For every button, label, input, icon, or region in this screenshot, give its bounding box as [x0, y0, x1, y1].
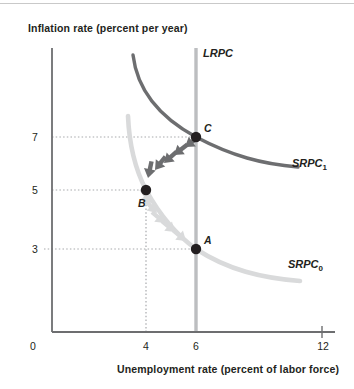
x-tick-label-0: 0 — [26, 340, 40, 352]
srpc1-label-subscript: 1 — [323, 163, 327, 172]
point-label-c: C — [204, 122, 212, 134]
x-tick-label-12: 12 — [315, 340, 331, 352]
x-tick-label-6: 6 — [189, 340, 203, 352]
srpc0-label-text: SRPC — [288, 258, 319, 270]
y-tick-label-5: 5 — [28, 184, 42, 196]
srpc1-curve — [133, 55, 298, 167]
data-point-a — [191, 244, 201, 254]
x-tick-label-4: 4 — [139, 340, 153, 352]
phillips-curve-chart — [0, 0, 354, 389]
srpc1-label: SRPC1 — [292, 157, 327, 172]
y-tick-label-3: 3 — [28, 243, 42, 255]
y-tick-label-7: 7 — [28, 131, 42, 143]
point-label-b: B — [138, 197, 146, 209]
srpc0-label-subscript: 0 — [319, 264, 323, 273]
y-axis-title: Inflation rate (percent per year) — [28, 22, 188, 34]
srpc0-curve — [128, 116, 300, 281]
srpc1-label-text: SRPC — [292, 157, 323, 169]
figure-container: Inflation rate (percent per year) Unempl… — [0, 0, 354, 389]
data-point-c — [191, 132, 201, 142]
data-point-b — [141, 185, 151, 195]
dotted-guides — [44, 137, 196, 332]
lrpc-label: LRPC — [203, 47, 233, 59]
point-label-a: A — [204, 234, 212, 246]
srpc0-label: SRPC0 — [288, 258, 323, 273]
x-axis-title: Unemployment rate (percent of labor forc… — [117, 363, 339, 375]
